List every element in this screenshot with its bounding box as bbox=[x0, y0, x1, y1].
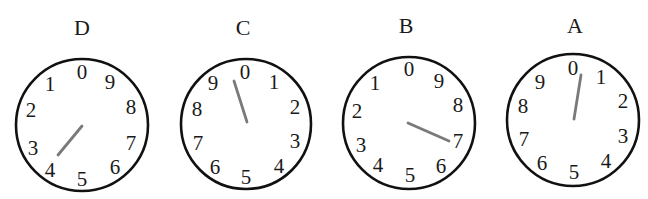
dial-c-digit-4: 4 bbox=[274, 156, 285, 177]
dial-a-digit-4: 4 bbox=[601, 151, 612, 172]
dial-c-digit-9: 9 bbox=[208, 73, 219, 94]
dial-b-digit-8: 8 bbox=[453, 95, 464, 116]
dial-c-digit-8: 8 bbox=[192, 99, 203, 120]
dial-d-digit-6: 6 bbox=[110, 157, 121, 178]
dial-d-pointer bbox=[58, 126, 82, 155]
dial-a-digit-1: 1 bbox=[596, 67, 607, 88]
dial-c-digit-1: 1 bbox=[269, 72, 280, 93]
dial-c-digit-6: 6 bbox=[210, 157, 221, 178]
dial-a-digit-9: 9 bbox=[535, 72, 546, 93]
dial-b-digit-9: 9 bbox=[434, 71, 445, 92]
dial-c-digit-2: 2 bbox=[290, 97, 301, 118]
dials-figure: D0123456789C0123456789B0123456789A012345… bbox=[0, 0, 648, 199]
dial-d-digit-2: 2 bbox=[26, 100, 37, 121]
dial-a-digit-8: 8 bbox=[518, 96, 529, 117]
dial-b-digit-5: 5 bbox=[405, 165, 416, 186]
dial-a-digit-7: 7 bbox=[519, 129, 530, 150]
dial-c-digit-3: 3 bbox=[290, 131, 301, 152]
dial-a-digit-2: 2 bbox=[618, 91, 629, 112]
dial-d-digit-1: 1 bbox=[45, 74, 56, 95]
dial-b-digit-6: 6 bbox=[436, 156, 447, 177]
dial-b-label: B bbox=[399, 15, 414, 37]
dial-d-label: D bbox=[74, 17, 90, 39]
dial-a-digit-6: 6 bbox=[537, 153, 548, 174]
dial-a-digit-3: 3 bbox=[618, 126, 629, 147]
dial-a-label: A bbox=[567, 15, 583, 37]
dial-b-digit-4: 4 bbox=[373, 155, 384, 176]
dial-a-digit-0: 0 bbox=[568, 58, 579, 79]
dial-c-digit-0: 0 bbox=[240, 62, 251, 83]
dial-graphics bbox=[0, 0, 648, 199]
dial-c-label: C bbox=[236, 17, 251, 39]
dial-b-digit-1: 1 bbox=[370, 73, 381, 94]
dial-c-digit-7: 7 bbox=[193, 133, 204, 154]
dial-d-digit-3: 3 bbox=[28, 138, 39, 159]
dial-d-digit-8: 8 bbox=[126, 97, 137, 118]
dial-b-digit-2: 2 bbox=[352, 101, 363, 122]
dial-a-pointer bbox=[574, 75, 581, 119]
dial-d-digit-7: 7 bbox=[126, 133, 137, 154]
dial-d-digit-5: 5 bbox=[77, 169, 88, 190]
dial-d-digit-0: 0 bbox=[77, 62, 88, 83]
dial-a-digit-5: 5 bbox=[569, 162, 580, 183]
dial-d-digit-9: 9 bbox=[105, 72, 116, 93]
dial-c-digit-5: 5 bbox=[241, 167, 252, 188]
dial-d-digit-4: 4 bbox=[45, 160, 56, 181]
dial-b-pointer bbox=[408, 123, 449, 141]
dial-b-digit-3: 3 bbox=[356, 135, 367, 156]
dial-c-pointer bbox=[234, 81, 247, 122]
dial-b-digit-0: 0 bbox=[404, 59, 415, 80]
dial-b-digit-7: 7 bbox=[453, 131, 464, 152]
